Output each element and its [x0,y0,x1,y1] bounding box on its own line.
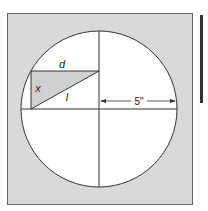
label-d: d [59,58,66,70]
label-x: x [34,82,41,94]
radius-label: 5" [134,96,144,107]
geometry-diagram: 5" d x l [0,0,208,211]
side-bar [200,15,203,103]
